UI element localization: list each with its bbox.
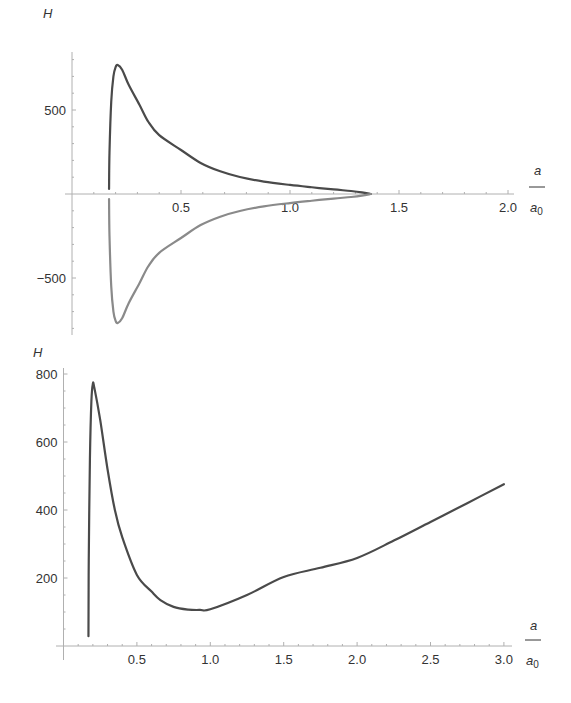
x-tick-label: 3.0 xyxy=(495,652,513,667)
chart-top-hamiltonian-two-branches: 500−500 0.51.01.52.0 H a a0 xyxy=(0,0,571,340)
x-tick-label: 2.5 xyxy=(421,652,439,667)
y-tick-label: 600 xyxy=(36,435,58,450)
x-axis-label-denominator: a0 xyxy=(530,200,543,217)
x-tick-label: 0.5 xyxy=(172,200,190,215)
y-tick-label: −500 xyxy=(37,271,66,286)
x-axis-label-denominator: a0 xyxy=(526,653,539,670)
y-axis-label: H xyxy=(33,345,43,360)
chart-bottom-svg: 200400600800 0.51.01.52.02.53.0 H a a0 xyxy=(0,340,571,703)
y-axis-label: H xyxy=(43,6,53,21)
series-line-H xyxy=(88,382,503,636)
x-axis-label: a a0 xyxy=(525,618,541,670)
y-tick-label: 400 xyxy=(36,503,58,518)
plot-lines xyxy=(88,382,503,636)
y-tick-label: 800 xyxy=(36,367,58,382)
x-tick-label: 2.0 xyxy=(348,652,366,667)
x-tick-label: 0.5 xyxy=(128,652,146,667)
x-tick-label: 1.0 xyxy=(201,652,219,667)
x-axis: 0.51.01.52.02.53.0 xyxy=(56,642,513,667)
x-axis-label: a a0 xyxy=(529,163,545,217)
x-axis-label-numerator: a xyxy=(530,618,537,633)
chart-top-svg: 500−500 0.51.01.52.0 H a a0 xyxy=(0,0,571,340)
x-tick-label: 1.5 xyxy=(390,200,408,215)
x-tick-label: 1.5 xyxy=(275,652,293,667)
chart-bottom-hamiltonian: 200400600800 0.51.01.52.02.53.0 H a a0 xyxy=(0,340,571,703)
x-axis-label-numerator: a xyxy=(534,163,541,178)
series-line-lower-branch xyxy=(109,194,371,323)
y-tick-label: 200 xyxy=(36,571,58,586)
x-tick-label: 2.0 xyxy=(499,200,517,215)
y-tick-label: 500 xyxy=(44,103,66,118)
y-axis: 200400600800 xyxy=(36,367,68,660)
series-line-upper-branch xyxy=(109,65,371,194)
